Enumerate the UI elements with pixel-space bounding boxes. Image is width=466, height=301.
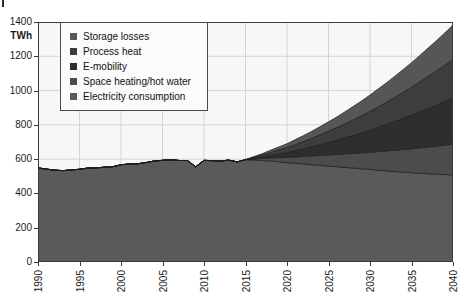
x-tick-label: 2010 [199,270,210,292]
top-left-artifact [2,0,4,7]
x-tick-mark [453,262,454,266]
y-tick-label: 200 [2,223,32,233]
x-tick-mark [121,262,122,266]
x-tick-label: 2035 [407,270,418,292]
y-tick-label: 1400 [2,17,32,27]
legend-item-process-heat: Process heat [61,44,207,59]
x-tick-label: 2020 [282,270,293,292]
y-tick-label: 800 [2,120,32,130]
y-tick-mark [34,125,38,126]
x-tick-mark [370,262,371,266]
legend-item-label: Electricity consumption [83,92,185,102]
x-tick-mark [287,262,288,266]
y-axis-unit-label: TWh [2,31,32,41]
y-tick-label: 1200 [2,51,32,61]
chart-legend: Storage losses Process heat E-mobility S… [60,22,208,111]
x-tick-mark [163,262,164,266]
legend-swatch-icon [70,93,77,100]
area-series-0 [38,160,453,262]
x-tick-label: 2005 [158,270,169,292]
legend-item-space-heating: Space heating/hot water [61,74,207,89]
y-tick-label: 600 [2,154,32,164]
y-tick-label: 1000 [2,86,32,96]
x-tick-label: 2030 [365,270,376,292]
y-tick-mark [34,91,38,92]
legend-item-e-mobility: E-mobility [61,59,207,74]
x-tick-label: 1995 [75,270,86,292]
y-tick-mark [34,159,38,160]
x-tick-label: 2025 [324,270,335,292]
x-tick-mark [80,262,81,266]
x-tick-label: 1990 [33,270,44,292]
chart-figure: Storage losses Process heat E-mobility S… [0,0,466,301]
y-tick-mark [34,56,38,57]
x-tick-mark [38,262,39,266]
x-tick-mark [412,262,413,266]
legend-item-label: Process heat [83,47,141,57]
legend-swatch-icon [70,63,77,70]
y-tick-mark [34,228,38,229]
x-tick-mark [329,262,330,266]
y-tick-label: 0 [2,257,32,267]
x-tick-label: 2015 [241,270,252,292]
y-tick-label: 400 [2,188,32,198]
y-tick-mark [34,193,38,194]
legend-swatch-icon [70,33,77,40]
legend-item-electricity-consumption: Electricity consumption [61,89,207,104]
x-tick-mark [246,262,247,266]
legend-swatch-icon [70,78,77,85]
legend-item-storage-losses: Storage losses [61,29,207,44]
legend-item-label: E-mobility [83,62,127,72]
legend-item-label: Storage losses [83,32,149,42]
x-tick-label: 2000 [116,270,127,292]
legend-item-label: Space heating/hot water [83,77,191,87]
legend-swatch-icon [70,48,77,55]
x-tick-label: 2040 [448,270,459,292]
x-tick-mark [204,262,205,266]
y-tick-mark [34,22,38,23]
